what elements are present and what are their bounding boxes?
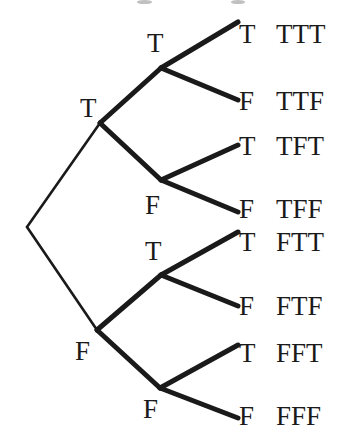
tree-edge-root-to-f: [27, 227, 97, 330]
leaf-outcome-tff: TFF: [276, 196, 323, 223]
leaf-value-fft: T: [239, 340, 256, 367]
leaf-value-tff: F: [239, 196, 254, 223]
tree-edge-f-to-ff: [97, 330, 160, 388]
binary-truth-tree-figure: TFTFTFTTTTFTTFTTFTFTFFTFTTFFTFTFFTFFFF: [0, 0, 341, 445]
tree-edge-f-to-ft: [97, 275, 161, 330]
scan-artifact-a1: [137, 0, 152, 4]
node-label-tt: T: [147, 30, 164, 57]
leaf-value-ttf: F: [239, 88, 254, 115]
leaf-outcome-ttt: TTT: [276, 21, 325, 48]
tree-edge-ff-to-l8: [160, 388, 238, 418]
tree-edge-ft-to-l6: [161, 275, 238, 306]
node-label-f: F: [75, 338, 90, 365]
node-label-tf: F: [145, 192, 160, 219]
tree-edge-tt-to-l1: [161, 22, 238, 68]
leaf-outcome-ftf: FTF: [276, 293, 323, 320]
leaf-outcome-tft: TFT: [276, 133, 324, 160]
leaf-value-tft: T: [239, 133, 256, 160]
tree-edge-ft-to-l5: [161, 232, 238, 275]
leaf-value-ftt: T: [239, 229, 256, 256]
tree-edge-tf-to-l4: [161, 180, 238, 212]
tree-edge-tf-to-l3: [161, 145, 238, 180]
leaf-outcome-ttf: TTF: [276, 88, 324, 115]
tree-edge-t-to-tt: [100, 68, 161, 123]
leaf-outcome-ftt: FTT: [276, 229, 324, 256]
scan-artifact-a2: [231, 0, 245, 4]
node-label-ft: T: [145, 238, 162, 265]
tree-edge-t-to-tf: [100, 123, 161, 180]
node-label-ff: F: [143, 396, 158, 423]
leaf-value-fff: F: [239, 403, 254, 430]
leaf-outcome-fff: FFF: [276, 403, 321, 430]
leaf-value-ftf: F: [239, 293, 254, 320]
leaf-outcome-fft: FFT: [276, 340, 323, 367]
leaf-value-ttt: T: [239, 21, 256, 48]
tree-edge-ff-to-l7: [160, 345, 238, 388]
tree-edge-root-to-t: [27, 123, 100, 227]
node-label-t: T: [80, 95, 97, 122]
tree-edge-tt-to-l2: [161, 68, 238, 100]
